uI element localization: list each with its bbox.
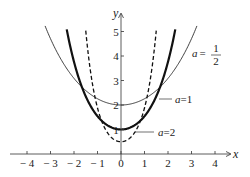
svg-text:2: 2 [213,55,219,67]
x-tick-label: 2 [165,157,171,169]
svg-text:a=: a= [192,47,206,59]
y-axis-label: y [112,6,119,20]
x-tick-label: 3 [189,157,195,169]
y-axis: y 12345 [112,6,124,160]
x-tick-label: − 3 [43,157,58,169]
annotation-a-half: a= 1 2 [192,42,221,67]
x-axis: x − 4− 3− 2− 101234 [10,147,239,169]
annotation-a-2: a=2 [135,126,175,138]
svg-text:a=1: a=1 [175,93,192,105]
x-axis-label: x [232,147,239,161]
y-tick-label: 5 [113,26,119,38]
y-tick-label: 1 [113,124,119,136]
x-tick-label: 4 [212,157,218,169]
chart: x − 4− 3− 2− 101234 y 12345 a= 1 2 a=1 a… [0,0,250,177]
x-tick-label: − 4 [20,157,35,169]
x-tick-label: 1 [142,157,148,169]
x-tick-label: − 1 [90,157,104,169]
annotation-a-1: a=1 [159,93,192,105]
svg-text:a=2: a=2 [158,126,175,138]
x-tick-label: − 2 [67,157,81,169]
svg-text:1: 1 [213,42,219,54]
y-tick-label: 3 [113,75,119,87]
y-tick-label: 2 [113,99,119,111]
y-tick-label: 4 [113,50,119,62]
